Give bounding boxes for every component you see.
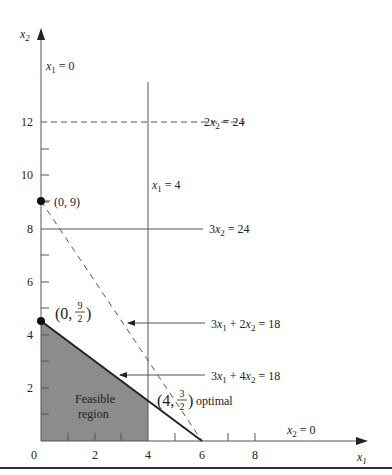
label-3x2-eq-24: 3x2 = 24: [209, 222, 250, 238]
y-tick-labels: 2 4 6 8 10 12: [21, 115, 33, 395]
svg-text:): ): [188, 392, 193, 410]
svg-text:2: 2: [92, 448, 98, 462]
svg-text:10: 10: [21, 168, 33, 182]
label-3x1-2x2-eq-18: 3x1 + 2x2 = 18: [211, 317, 280, 333]
svg-text:2: 2: [78, 313, 83, 324]
svg-text:2: 2: [180, 401, 185, 412]
svg-text:(4,: (4,: [157, 392, 174, 410]
svg-text:4: 4: [27, 328, 33, 342]
y-axis-arrow-icon: [37, 28, 45, 40]
label-x2-eq-0: x2 = 0: [286, 423, 316, 439]
label-x1-eq-4: x1 = 4: [151, 178, 181, 194]
svg-text:6: 6: [199, 448, 205, 462]
svg-text:4: 4: [145, 448, 151, 462]
svg-text:9: 9: [78, 300, 83, 311]
label-3x1-4x2-eq-18: 3x1 + 4x2 = 18: [211, 369, 280, 385]
feasible-label-1: Feasible: [75, 392, 115, 406]
svg-text:): ): [86, 305, 91, 323]
y-axis-label: x2: [19, 27, 30, 43]
point-0-9-2: [37, 317, 45, 325]
label-2x2-eq-24: 2x2 = 24: [204, 115, 245, 131]
svg-text:8: 8: [27, 222, 33, 236]
x-axis-arrow-icon: [356, 437, 368, 445]
label-point-0-9: (0, 9): [54, 195, 80, 209]
svg-text:0: 0: [31, 448, 37, 462]
x-tick-labels: 0 2 4 6 8: [31, 448, 258, 462]
svg-text:12: 12: [21, 115, 33, 129]
label-point-0-9-2: (0, 9 2 ): [55, 300, 91, 324]
label-x1-eq-0: x1 = 0: [45, 59, 75, 75]
svg-text:8: 8: [252, 448, 258, 462]
x-axis-label: x1: [356, 450, 367, 466]
svg-text:6: 6: [27, 275, 33, 289]
lp-graph: 2 4 6 8 10 12 0 2 4 6 8 x2 x1 x1 = 0 x2 …: [0, 0, 392, 475]
feasible-label-2: region: [78, 407, 109, 421]
svg-text:2: 2: [27, 381, 33, 395]
label-point-optimal: (4, 3 2 ) optimal: [157, 388, 233, 412]
feasible-region: [41, 321, 148, 441]
svg-text:optimal: optimal: [196, 394, 233, 408]
svg-text:(0,: (0,: [55, 305, 72, 323]
point-0-9: [37, 197, 45, 205]
svg-text:3: 3: [180, 388, 185, 399]
